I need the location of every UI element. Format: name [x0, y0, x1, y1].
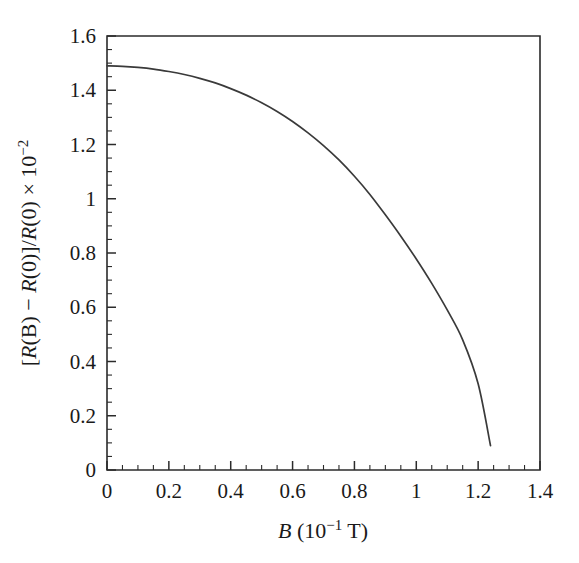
x-tick-label: 0.4 [218, 479, 245, 503]
chart-figure: 00.20.40.60.811.21.4 00.20.40.60.811.21.… [0, 0, 579, 563]
x-tick-label: 0.8 [341, 479, 367, 503]
x-axis-title: B (10−1 T) [278, 517, 368, 543]
magnetoresistance-line-chart: 00.20.40.60.811.21.4 00.20.40.60.811.21.… [0, 0, 579, 563]
y-axis-title: [R(B) − R(0)]/R(0) × 10−2 [15, 140, 41, 367]
y-tick-label: 0.8 [70, 241, 96, 265]
y-tick-label: 0 [86, 458, 97, 482]
x-tick-label: 1.4 [527, 479, 554, 503]
x-tick-label: 0.2 [156, 479, 182, 503]
y-tick-label: 1.4 [70, 78, 97, 102]
y-axis-tick-labels: 00.20.40.60.811.21.41.6 [70, 24, 97, 482]
x-tick-label: 0 [102, 479, 113, 503]
x-tick-label: 1.2 [465, 479, 491, 503]
y-tick-label: 1.6 [70, 24, 96, 48]
y-tick-label: 1 [86, 187, 97, 211]
y-tick-label: 0.4 [70, 350, 97, 374]
x-tick-label: 1 [411, 479, 422, 503]
x-tick-label: 0.6 [279, 479, 305, 503]
y-tick-label: 0.6 [70, 295, 96, 319]
y-tick-label: 0.2 [70, 404, 96, 428]
y-tick-label: 1.2 [70, 133, 96, 157]
